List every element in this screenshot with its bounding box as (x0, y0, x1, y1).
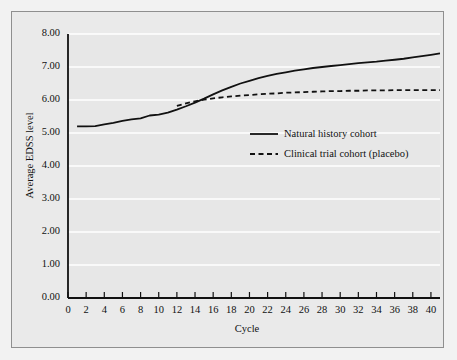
legend-label-natural-history: Natural history cohort (284, 128, 377, 139)
x-axis-title: Cycle (68, 323, 426, 334)
y-tick-label: 2.00 (16, 225, 60, 236)
y-tick-label: 7.00 (16, 60, 60, 71)
y-tick-label: 1.00 (16, 258, 60, 269)
y-tick-label: 0.00 (16, 291, 60, 302)
chart-figure: 0.001.002.003.004.005.006.007.008.00 024… (0, 0, 457, 360)
y-axis-title: Average EDSS level (24, 96, 35, 216)
y-tick-label: 8.00 (16, 27, 60, 38)
x-tick-label: 40 (417, 304, 445, 315)
legend-label-clinical-trial: Clinical trial cohort (placebo) (284, 148, 409, 159)
